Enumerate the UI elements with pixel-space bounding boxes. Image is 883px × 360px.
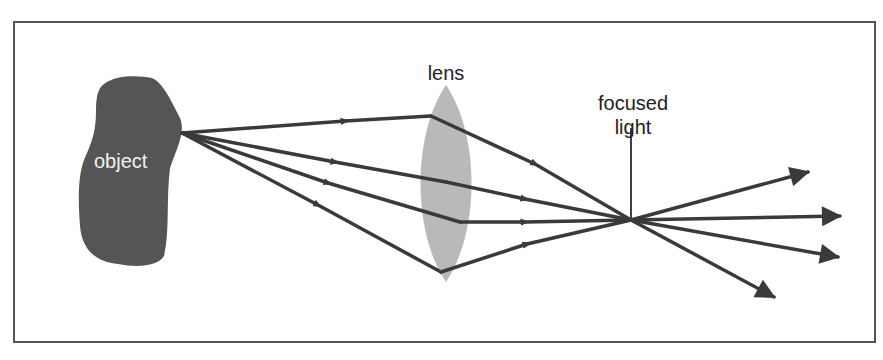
lens-diagram: object lens focused light — [0, 0, 883, 360]
object-label: object — [94, 150, 148, 172]
ray-1-incoming — [182, 116, 431, 133]
ray-2-refracted — [446, 182, 631, 220]
ray-1-outgoing — [631, 172, 808, 220]
ray-4-incoming — [182, 133, 441, 272]
ray-3-refracted — [460, 220, 631, 222]
ray-4-refracted — [441, 220, 631, 272]
ray-2-incoming — [182, 133, 446, 182]
ray-2-outgoing — [631, 216, 840, 220]
lens-label: lens — [428, 62, 465, 84]
focused-label-line2: light — [615, 116, 652, 138]
focused-label-line1: focused — [598, 92, 668, 114]
